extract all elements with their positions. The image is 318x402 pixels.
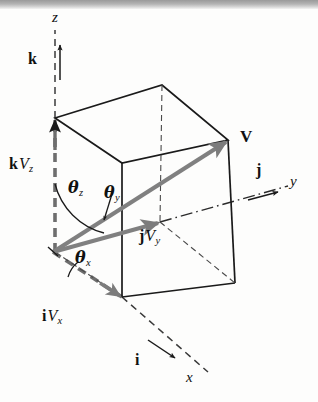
theta-y-subscript: y (115, 192, 120, 203)
component-label-jVy: jVy (139, 228, 160, 247)
axis-label-x: x (186, 370, 193, 385)
unit-vector-label-j: j (256, 162, 261, 178)
vector-iVx-arrow (100, 283, 120, 296)
component-label-kVz: kVz (9, 156, 33, 175)
component-iVx-magnitude: V (47, 307, 57, 324)
axis-y-dashdot (160, 186, 288, 222)
axis-y (160, 186, 288, 222)
component-kVz-unit: k (9, 155, 18, 172)
unit-vector-i-arrow (148, 340, 175, 358)
unit-vector-label-i: i (135, 352, 139, 368)
box-edge-right-vertical (228, 140, 235, 283)
figure-canvas: z k kVz θz θy θx jVy iVx V j y i x (0, 0, 318, 402)
axis-label-z: z (52, 10, 58, 25)
component-label-iVx: iVx (42, 308, 62, 327)
vector-diagram-svg (0, 0, 318, 402)
theta-z-subscript: z (79, 187, 83, 198)
theta-z-symbol: θ (68, 178, 79, 197)
box-edge-bottom-front (122, 283, 235, 297)
resultant-label-V: V (240, 128, 252, 145)
theta-x-subscript: x (86, 257, 91, 268)
component-iVx-unit: i (42, 307, 46, 324)
component-iVx-subscript: x (58, 315, 63, 326)
angle-label-theta-x: θx (75, 250, 91, 269)
theta-y-symbol: θ (104, 183, 115, 202)
axis-label-y: y (290, 174, 297, 189)
component-kVz-subscript: z (29, 163, 33, 174)
angle-label-theta-y: θy (104, 185, 120, 204)
theta-x-symbol: θ (75, 248, 86, 267)
box-hidden-edge-back-vertical (160, 85, 162, 222)
unit-vector-label-k: k (28, 51, 37, 67)
box-hidden-edge-back-right-bottom (160, 222, 235, 283)
box-top-face (55, 85, 228, 163)
component-jVy-magnitude: V (145, 227, 155, 244)
component-kVz-magnitude: V (19, 155, 29, 172)
angle-label-theta-z: θz (68, 180, 83, 199)
axis-x (53, 252, 208, 372)
component-jVy-subscript: y (155, 235, 160, 246)
component-jVy-unit: j (139, 227, 144, 244)
